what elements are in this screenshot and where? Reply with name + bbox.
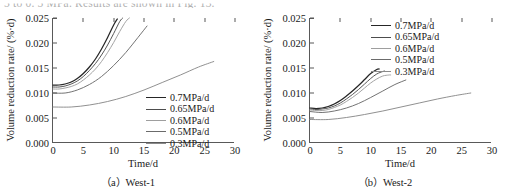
x-tick-mark <box>204 18 205 22</box>
y-tick-mark <box>310 18 314 19</box>
legend-item-label: 0.65MPa/d <box>395 31 439 42</box>
y-tick-label: 0.025 <box>282 13 306 24</box>
y-tick-label: 0.000 <box>25 138 49 149</box>
y-tick-label: 0.015 <box>282 63 306 74</box>
y-tick-mark <box>310 43 314 44</box>
y-tick-label: 0.025 <box>25 13 49 24</box>
legend-swatch-icon <box>146 120 166 121</box>
y-tick-label: 0.020 <box>282 38 306 49</box>
figure-page: 5 to 0. 5 MPa. Results are shown in Fig.… <box>0 0 513 191</box>
x-tick-label: 0 <box>307 145 312 156</box>
y-tick-mark <box>310 93 314 94</box>
legend-item-label: 0.6MPa/d <box>170 115 209 126</box>
y-tick-label: 0.005 <box>25 113 49 124</box>
x-axis-label-west-1: Time/d <box>52 158 234 169</box>
legend-item-label: 0.5MPa/d <box>170 126 209 137</box>
legend-item-label: 0.6MPa/d <box>395 43 434 54</box>
caption-west-1: （a）West-1 <box>0 174 256 189</box>
y-tick-mark <box>53 118 57 119</box>
x-tick-mark <box>461 18 462 22</box>
legend-item: 0.65MPa/d <box>371 31 439 42</box>
legend-swatch-icon <box>371 59 391 60</box>
legend-item: 0.65MPa/d <box>146 103 214 114</box>
x-tick-label: 0 <box>50 145 55 156</box>
legend-item-label: 0.65MPa/d <box>170 103 214 114</box>
legend-swatch-icon <box>371 37 391 38</box>
y-tick-label: 0.005 <box>282 113 306 124</box>
legend-item: 0.3MPa/d <box>146 138 214 149</box>
legend-item-label: 0.7MPa/d <box>170 92 209 103</box>
x-tick-mark <box>492 18 493 22</box>
y-tick-mark <box>53 18 57 19</box>
y-tick-label: 0.010 <box>25 88 49 99</box>
y-tick-label: 0.020 <box>25 38 49 49</box>
legend-item: 0.3MPa/d <box>371 66 439 77</box>
figure-west-2: 0.0000.0050.0100.0150.0200.0250510152025… <box>257 8 513 191</box>
x-tick-label: 25 <box>456 145 467 156</box>
y-tick-mark <box>53 43 57 44</box>
legend-item: 0.7MPa/d <box>371 20 439 31</box>
y-tick-label: 0.000 <box>282 138 306 149</box>
legend-west-2: 0.7MPa/d0.65MPa/d0.6MPa/d0.5MPa/d0.3MPa/… <box>371 20 439 77</box>
y-tick-label: 0.010 <box>282 88 306 99</box>
x-tick-mark <box>83 18 84 22</box>
caption-west-2: （b）West-2 <box>257 174 513 189</box>
legend-item-label: 0.5MPa/d <box>395 54 434 65</box>
x-tick-label: 10 <box>365 145 376 156</box>
legend-item: 0.6MPa/d <box>371 43 439 54</box>
figure-west-1: 0.0000.0050.0100.0150.0200.0250510152025… <box>0 8 256 191</box>
plot-area-west-2: 0.0000.0050.0100.0150.0200.0250510152025… <box>257 8 513 168</box>
x-tick-mark <box>235 18 236 22</box>
x-tick-mark <box>340 18 341 22</box>
x-tick-label: 15 <box>396 145 407 156</box>
x-tick-mark <box>113 18 114 22</box>
legend-item-label: 0.3MPa/d <box>170 138 209 149</box>
legend-swatch-icon <box>146 97 166 98</box>
x-tick-label: 20 <box>426 145 437 156</box>
x-tick-label: 10 <box>108 145 119 156</box>
legend-swatch-icon <box>371 71 391 72</box>
legend-item-label: 0.3MPa/d <box>395 66 434 77</box>
y-tick-label: 0.015 <box>25 63 49 74</box>
y-axis-label-west-1: Volume reduction rate/ (%·d) <box>5 18 16 141</box>
y-tick-mark <box>310 68 314 69</box>
legend-item: 0.7MPa/d <box>146 92 214 103</box>
legend-item: 0.5MPa/d <box>371 54 439 65</box>
y-tick-mark <box>53 93 57 94</box>
legend-west-1: 0.7MPa/d0.65MPa/d0.6MPa/d0.5MPa/d0.3MPa/… <box>146 92 214 149</box>
legend-swatch-icon <box>146 131 166 132</box>
legend-swatch-icon <box>146 143 166 144</box>
running-body-text: 5 to 0. 5 MPa. Results are shown in Fig.… <box>4 0 509 8</box>
legend-swatch-icon <box>146 109 166 110</box>
legend-item-label: 0.7MPa/d <box>395 20 434 31</box>
legend-swatch-icon <box>371 48 391 49</box>
legend-item: 0.5MPa/d <box>146 126 214 137</box>
x-tick-mark <box>174 18 175 22</box>
x-tick-label: 5 <box>338 145 343 156</box>
series-line <box>53 18 129 89</box>
x-axis-label-west-2: Time/d <box>309 158 491 169</box>
x-tick-label: 30 <box>230 145 241 156</box>
y-tick-mark <box>310 118 314 119</box>
y-tick-mark <box>53 68 57 69</box>
plot-area-west-1: 0.0000.0050.0100.0150.0200.0250510152025… <box>0 8 256 168</box>
x-tick-label: 30 <box>487 145 498 156</box>
legend-item: 0.6MPa/d <box>146 115 214 126</box>
x-tick-label: 5 <box>81 145 86 156</box>
legend-swatch-icon <box>371 25 391 26</box>
x-tick-mark <box>144 18 145 22</box>
y-axis-label-west-2: Volume reduction rate/ (%·d) <box>262 18 273 141</box>
